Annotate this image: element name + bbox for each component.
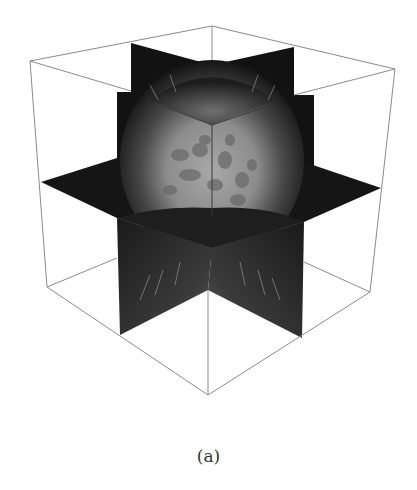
- cube-volume-figure: [0, 0, 417, 490]
- figure-caption: (a): [0, 446, 417, 466]
